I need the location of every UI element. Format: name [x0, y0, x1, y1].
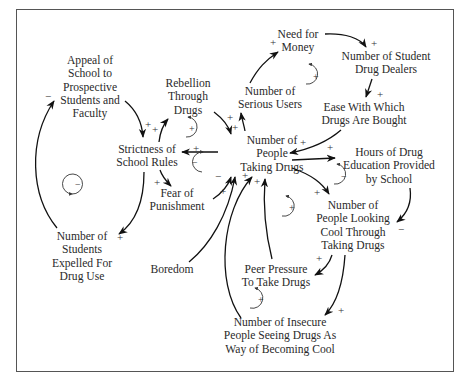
loop-expulsion-negative: −: [62, 174, 82, 194]
loop-peer-positive: +: [282, 196, 295, 216]
node-dealers: Number of StudentDrug Dealers: [342, 50, 432, 76]
edge-ease-people: [290, 130, 341, 153]
svg-text:+: +: [232, 121, 238, 133]
loop-fear-negative: −: [192, 152, 203, 172]
svg-text:Hours of DrugEducation Provide: Hours of DrugEducation Providedby School: [343, 146, 435, 186]
edge-serious-money: [250, 52, 278, 83]
node-serious-users: Number ofSerious Users: [238, 85, 303, 111]
svg-text:Boredom: Boredom: [150, 263, 193, 276]
svg-text:Number of InsecurePeople Seein: Number of InsecurePeople Seeing Drugs As…: [224, 316, 337, 356]
svg-text:−: −: [215, 170, 221, 182]
loop-insecure-positive: +: [250, 288, 264, 308]
edge-people-serious: [241, 113, 245, 131]
svg-text:+: +: [258, 294, 264, 305]
node-boredom: Boredom: [150, 263, 193, 276]
edge-strictness-fear: [160, 170, 171, 186]
node-peer-pressure: Peer PressureTo Take Drugs: [242, 263, 311, 289]
node-looking-cool: Number ofPeople LookingCool ThroughTakin…: [316, 199, 390, 252]
edge-expelled-appeal: [36, 101, 57, 228]
svg-text:Need forMoney: Need forMoney: [278, 28, 319, 54]
node-expelled: Number ofStudentsExpelled ForDrug Use: [52, 230, 112, 283]
svg-text:−: −: [341, 171, 347, 182]
causal-loop-diagram: Appeal ofSchool toProspectiveStudents an…: [0, 0, 469, 388]
node-education: Hours of DrugEducation Providedby School: [343, 146, 435, 186]
svg-text:+: +: [152, 123, 158, 135]
node-insecure: Number of InsecurePeople Seeing Drugs As…: [224, 316, 337, 356]
node-strictness: Strictness ofSchool Rules: [116, 143, 178, 169]
edge-dealers-ease: [366, 79, 372, 97]
svg-text:+: +: [242, 169, 248, 181]
svg-text:+: +: [313, 71, 319, 82]
svg-text:+: +: [300, 136, 306, 148]
node-appeal: Appeal ofSchool toProspectiveStudents an…: [60, 54, 120, 120]
svg-text:+: +: [289, 202, 295, 213]
edge-education-lookingcool: [397, 188, 410, 222]
edge-strictness-expelled: [119, 172, 144, 234]
svg-text:Number ofPeople LookingCool Th: Number ofPeople LookingCool ThroughTakin…: [316, 199, 390, 252]
svg-text:RebellionThroughDrugs: RebellionThroughDrugs: [165, 77, 210, 117]
node-ease: Ease With WhichDrugs Are Bought: [321, 101, 407, 127]
svg-text:−: −: [192, 157, 198, 168]
svg-text:Number of StudentDrug Dealers: Number of StudentDrug Dealers: [342, 50, 432, 76]
svg-text:+: +: [371, 37, 377, 49]
loop-rebellion-positive: +: [186, 117, 197, 137]
svg-text:Number ofStudentsExpelled ForD: Number ofStudentsExpelled ForDrug Use: [52, 230, 112, 283]
svg-text:+: +: [314, 186, 320, 198]
svg-text:+: +: [254, 175, 260, 187]
svg-text:Fear ofPunishment: Fear ofPunishment: [150, 187, 206, 213]
svg-text:+: +: [327, 141, 333, 153]
node-people-taking-drugs: Number ofPeopleTaking Drugs: [240, 134, 304, 174]
svg-text:Strictness ofSchool Rules: Strictness ofSchool Rules: [116, 143, 178, 169]
node-fear: Fear ofPunishment: [150, 187, 206, 213]
svg-text:−: −: [75, 179, 81, 190]
svg-text:Peer PressureTo Take Drugs: Peer PressureTo Take Drugs: [242, 263, 311, 289]
svg-text:+: +: [220, 185, 226, 197]
svg-text:+: +: [145, 118, 151, 130]
svg-text:+: +: [338, 304, 344, 316]
svg-text:Number ofSerious Users: Number ofSerious Users: [238, 85, 303, 111]
edge-money-dealers: [325, 34, 366, 47]
node-need-money: Need forMoney: [278, 28, 319, 54]
edge-insecure-people: [225, 177, 252, 318]
svg-text:+: +: [377, 88, 383, 100]
svg-text:+: +: [193, 142, 199, 154]
edge-appeal-strictness: [125, 101, 143, 137]
svg-text:+: +: [117, 231, 123, 243]
svg-text:Ease With WhichDrugs Are Bough: Ease With WhichDrugs Are Bought: [321, 101, 407, 127]
loop-dealers-positive: +: [306, 64, 319, 84]
svg-text:−: −: [398, 223, 404, 235]
edge-people-education: [292, 158, 335, 160]
svg-text:+: +: [154, 176, 160, 188]
edge-strictness-rebellion: [159, 119, 168, 142]
svg-text:+: +: [189, 123, 195, 134]
svg-text:Number ofPeopleTaking Drugs: Number ofPeopleTaking Drugs: [240, 134, 304, 174]
edge-peer-people: [264, 179, 272, 259]
svg-text:−: −: [45, 90, 51, 102]
svg-text:+: +: [270, 36, 276, 48]
svg-text:+: +: [316, 252, 322, 264]
node-rebellion: RebellionThroughDrugs: [165, 77, 210, 117]
svg-text:Appeal ofSchool toProspectiveS: Appeal ofSchool toProspectiveStudents an…: [60, 54, 120, 120]
edge-boredom-people: [189, 177, 235, 262]
